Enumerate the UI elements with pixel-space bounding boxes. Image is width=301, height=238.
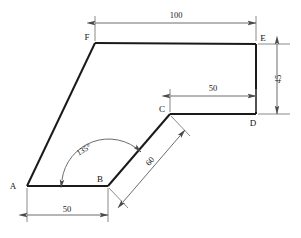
dimension-label-middle-50: 50 <box>209 83 218 93</box>
vertex-label-b: B <box>97 174 103 184</box>
ext-line-b-diag <box>109 188 128 208</box>
dimension-label-top-100: 100 <box>170 10 183 20</box>
vertex-label-a: A <box>10 181 17 191</box>
shape-outline-group <box>27 43 256 186</box>
ext-line-c-diag <box>171 116 190 136</box>
vertex-label-d: D <box>250 118 257 128</box>
dimension-label-bottom-50: 50 <box>63 204 72 214</box>
edge-e-f <box>95 43 256 44</box>
technical-drawing-canvas: A B C D E F 100 45 50 50 60 135° <box>0 0 301 238</box>
vertex-label-f: F <box>84 32 89 42</box>
dim-line-diagonal <box>123 130 185 202</box>
vertex-labels-group: A B C D E F <box>10 32 267 191</box>
dimension-label-right-45: 45 <box>273 75 283 84</box>
dimension-labels-group: 100 45 50 50 60 135° <box>63 10 283 214</box>
drawing-svg: A B C D E F 100 45 50 50 60 135° <box>0 0 301 238</box>
vertex-label-e: E <box>260 33 266 43</box>
edge-f-a <box>27 43 95 186</box>
vertex-label-c: C <box>159 104 165 114</box>
angle-label-135: 135° <box>75 142 93 157</box>
